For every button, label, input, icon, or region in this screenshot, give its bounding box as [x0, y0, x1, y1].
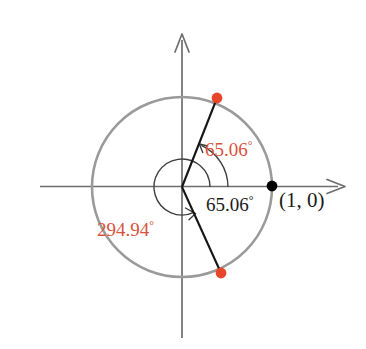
terminal-point-upper [212, 93, 223, 104]
unit-point [267, 181, 278, 192]
label-angle-negative: 65.06° [206, 195, 253, 214]
label-angle-negative-value: 65.06 [206, 194, 249, 215]
label-unit-point: (1, 0) [279, 190, 325, 211]
terminal-point-lower [216, 268, 227, 279]
label-angle-coterminal-value: 294.94 [97, 219, 149, 240]
degree-symbol-positive: ° [248, 139, 253, 152]
label-angle-positive: 65.06° [205, 140, 252, 159]
figure-canvas: 65.06° 65.06° 294.94° (1, 0) [0, 0, 366, 349]
label-angle-coterminal: 294.94° [97, 220, 154, 239]
degree-symbol-coterminal: ° [149, 219, 154, 232]
axes-group [40, 34, 345, 338]
unit-circle-diagram [0, 0, 366, 349]
label-angle-positive-value: 65.06 [205, 139, 248, 160]
degree-symbol-negative: ° [249, 194, 254, 207]
